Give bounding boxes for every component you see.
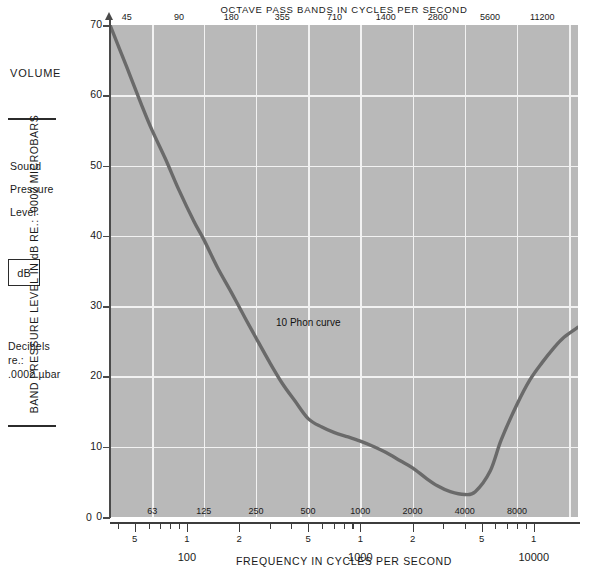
top-axis-tick-label: 11200 (517, 12, 567, 22)
sidebar: VOLUME Sound Pressure Level dB Decibels … (0, 0, 100, 574)
ruler-minor-tick (160, 523, 161, 529)
top-axis-tick-label: 710 (310, 12, 360, 22)
ruler-tick-label: 5 (125, 533, 145, 544)
ruler-minor-tick (526, 523, 527, 529)
ruler-major-tick (187, 523, 188, 532)
y-axis-tick-mark (103, 166, 110, 168)
plot-octave-band-label: 500 (283, 506, 333, 516)
y-axis-tick-mark (103, 517, 110, 519)
ruler-minor-tick (170, 523, 171, 529)
y-axis-tick-label: 70 (78, 18, 102, 30)
top-axis-tick-label: 180 (206, 12, 256, 22)
y-axis-tick-label: 50 (78, 159, 102, 171)
ruler-minor-tick (149, 523, 150, 529)
ruler-minor-tick (291, 523, 292, 529)
ruler-tick-label: 2 (229, 533, 249, 544)
y-axis-tick-mark (103, 236, 110, 238)
y-axis-tick-mark (103, 376, 110, 378)
y-axis-tick-mark (103, 447, 110, 449)
y-axis-zero-label: 0 (86, 511, 92, 523)
top-axis-tick-label: 355 (257, 12, 307, 22)
ruler-tick-label: 5 (472, 533, 492, 544)
plot-octave-band-label: 63 (127, 506, 177, 516)
ruler-major-tick (239, 523, 240, 532)
ruler-minor-tick (443, 523, 444, 529)
ruler-minor-tick (465, 523, 466, 529)
ruler-major-tick (135, 523, 136, 532)
curve-10-phon (110, 25, 578, 517)
top-axis-tick-label: 5600 (465, 12, 515, 22)
plot-octave-band-label: 1000 (335, 506, 385, 516)
y-axis-tick-label: 40 (78, 229, 102, 241)
y-axis-tick-label: 20 (78, 369, 102, 381)
ruler-minor-tick (270, 523, 271, 529)
ruler-minor-tick (334, 523, 335, 529)
y-axis-tick-mark (103, 306, 110, 308)
ruler-minor-tick (322, 523, 323, 529)
ruler-minor-tick (352, 523, 353, 529)
ruler-tick-label: 1 (177, 533, 197, 544)
plot-octave-band-label: 4000 (440, 506, 490, 516)
sidebar-title: VOLUME (10, 67, 61, 79)
x-axis-label: FREQUENCY IN CYCLES PER SECOND (110, 555, 578, 567)
ruler-tick-label: 2 (403, 533, 423, 544)
ruler-minor-tick (344, 523, 345, 529)
ruler-major-tick (482, 523, 483, 532)
top-axis-tick-label: 2800 (413, 12, 463, 22)
ruler-tick-label: 1 (350, 533, 370, 544)
plot-octave-band-label: 125 (179, 506, 229, 516)
ruler-tick-label: 1 (524, 533, 544, 544)
ruler-major-tick (360, 523, 361, 532)
plot-octave-band-label: 8000 (492, 506, 542, 516)
ruler-minor-tick (179, 523, 180, 529)
y-axis-tick-label: 30 (78, 299, 102, 311)
plot-octave-band-label: 2000 (388, 506, 438, 516)
curve-annotation: 10 Phon curve (276, 317, 341, 328)
y-axis-tick-mark (103, 25, 110, 27)
ruler-minor-tick (517, 523, 518, 529)
plot-octave-band-label: 250 (231, 506, 281, 516)
y-axis-tick-label: 60 (78, 88, 102, 100)
plot-area (110, 25, 578, 517)
y-axis-label: BAND PRESSURE LEVEL IN dB RE.: .0002 MIC… (28, 84, 40, 444)
y-axis-line (109, 18, 111, 518)
ruler-major-tick (308, 523, 309, 532)
x-axis-ruler-line (110, 522, 580, 524)
sidebar-desc-line-2: re.: (8, 354, 24, 366)
y-axis-tick-label: 10 (78, 440, 102, 452)
ruler-minor-tick (507, 523, 508, 529)
ruler-minor-tick (495, 523, 496, 529)
ruler-major-tick (413, 523, 414, 532)
top-axis-tick-label: 1400 (361, 12, 411, 22)
ruler-minor-tick (118, 523, 119, 529)
ruler-tick-label: 5 (298, 533, 318, 544)
ruler-major-tick (534, 523, 535, 532)
y-axis-tick-mark (103, 95, 110, 97)
top-axis-tick-label: 90 (154, 12, 204, 22)
chart-page: VOLUME Sound Pressure Level dB Decibels … (0, 0, 592, 574)
